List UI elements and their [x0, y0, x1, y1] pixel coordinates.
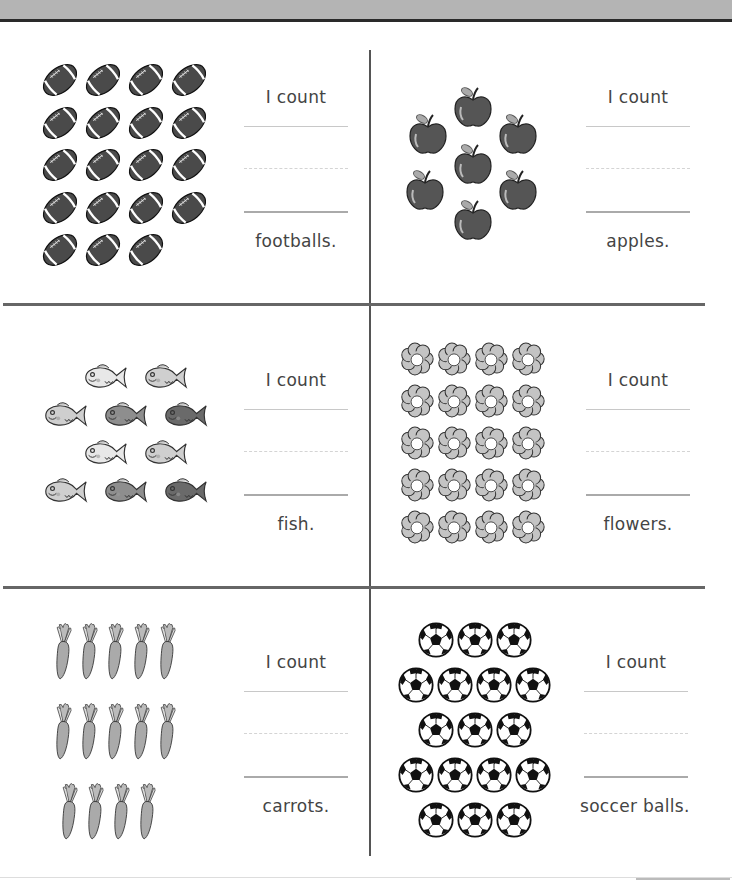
football-icon — [169, 190, 209, 230]
soccer-ball-icon — [515, 757, 551, 797]
writing-line-top[interactable] — [244, 691, 348, 692]
fish-icon — [160, 398, 210, 435]
flower-icon — [437, 384, 471, 422]
fish-picture — [40, 360, 230, 520]
flower-icon — [511, 342, 545, 380]
apples-label: apples. — [586, 230, 690, 252]
flower-icon — [474, 510, 508, 548]
fish-icon — [100, 398, 150, 435]
writing-line-mid — [244, 733, 348, 734]
soccer-ball-icon — [398, 757, 434, 797]
soccer-balls-label: soccer balls. — [580, 795, 688, 817]
carrot-icon — [78, 612, 100, 694]
soccer-ball-icon — [418, 622, 454, 662]
writing-line-base[interactable] — [586, 211, 690, 213]
writing-line-mid — [244, 168, 348, 169]
football-icon — [169, 105, 209, 145]
fish-icon — [140, 360, 190, 397]
flower-icon — [474, 468, 508, 506]
football-icon — [169, 147, 209, 187]
apple-icon — [453, 198, 493, 246]
writing-line-base[interactable] — [586, 494, 690, 496]
football-icon — [83, 232, 123, 272]
football-icon — [169, 62, 209, 102]
flower-icon — [400, 510, 434, 548]
soccer-ball-icon — [496, 802, 532, 842]
fish-icon — [160, 474, 210, 511]
apples-picture — [400, 80, 560, 250]
i-count-label: I count — [586, 369, 690, 391]
horizontal-divider-2 — [3, 586, 705, 589]
header-band — [0, 0, 732, 19]
flower-icon — [400, 342, 434, 380]
soccer-ball-icon — [457, 802, 493, 842]
writing-line-top[interactable] — [586, 126, 690, 127]
flower-icon — [474, 426, 508, 464]
flowers-label: flowers. — [586, 513, 690, 535]
writing-line-mid — [244, 451, 348, 452]
football-icon — [40, 190, 80, 230]
flower-icon — [437, 468, 471, 506]
writing-line-base[interactable] — [244, 211, 348, 213]
horizontal-divider-1 — [3, 303, 705, 306]
carrot-icon — [110, 772, 132, 854]
carrot-icon — [104, 692, 126, 774]
i-count-label: I count — [244, 651, 348, 673]
football-icon — [126, 105, 166, 145]
fish-icon — [40, 398, 90, 435]
soccer-ball-icon — [476, 757, 512, 797]
carrots-label: carrots. — [244, 795, 348, 817]
carrot-icon — [156, 692, 178, 774]
flower-icon — [474, 384, 508, 422]
football-icon — [83, 105, 123, 145]
writing-line-base[interactable] — [244, 776, 348, 778]
flower-icon — [474, 342, 508, 380]
football-icon — [126, 147, 166, 187]
flower-icon — [511, 384, 545, 422]
soccer-ball-icon — [398, 667, 434, 707]
fish-icon — [80, 436, 130, 473]
apple-icon — [498, 112, 538, 160]
writing-line-base[interactable] — [244, 494, 348, 496]
football-icon — [83, 147, 123, 187]
carrot-icon — [84, 772, 106, 854]
flower-icon — [511, 426, 545, 464]
flower-icon — [400, 384, 434, 422]
flower-icon — [511, 468, 545, 506]
writing-line-top[interactable] — [244, 409, 348, 410]
carrot-icon — [52, 612, 74, 694]
soccer-ball-icon — [437, 757, 473, 797]
writing-line-top[interactable] — [244, 126, 348, 127]
fish-answer: I count fish. — [244, 369, 348, 535]
flower-icon — [511, 510, 545, 548]
flowers-answer: I count flowers. — [586, 369, 690, 535]
apple-icon — [453, 85, 493, 133]
flower-icon — [437, 342, 471, 380]
carrot-icon — [156, 612, 178, 694]
writing-line-top[interactable] — [584, 691, 688, 692]
apples-answer: I count apples. — [586, 86, 690, 252]
carrot-icon — [52, 692, 74, 774]
soccer-ball-icon — [476, 667, 512, 707]
writing-line-base[interactable] — [584, 776, 688, 778]
football-icon — [126, 62, 166, 102]
carrot-icon — [104, 612, 126, 694]
footballs-label: footballs. — [244, 230, 348, 252]
fish-icon — [140, 436, 190, 473]
flower-icon — [437, 426, 471, 464]
carrot-icon — [58, 772, 80, 854]
flower-icon — [400, 426, 434, 464]
i-count-label: I count — [244, 86, 348, 108]
bottom-rule-accent — [636, 878, 730, 880]
flowers-picture — [400, 342, 560, 554]
apple-icon — [498, 168, 538, 216]
soccer-ball-icon — [457, 712, 493, 752]
writing-line-mid — [586, 451, 690, 452]
carrots-answer: I count carrots. — [244, 651, 348, 817]
fish-icon — [80, 360, 130, 397]
i-count-label: I count — [586, 86, 690, 108]
apple-icon — [408, 112, 448, 160]
soccer-balls-picture — [398, 622, 558, 848]
football-icon — [126, 190, 166, 230]
writing-line-top[interactable] — [586, 409, 690, 410]
